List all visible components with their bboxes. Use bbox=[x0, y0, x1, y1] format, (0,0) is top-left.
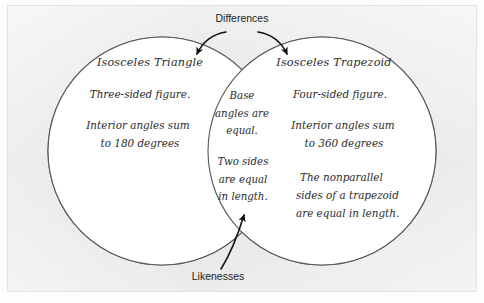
left-set-item-2: to 180 degrees bbox=[101, 137, 180, 149]
right-set-item-5: are equal in length. bbox=[296, 207, 399, 219]
left-set-item-1: Interior angles sum bbox=[85, 119, 190, 131]
right-set-item-4: sides of a trapezoid bbox=[296, 189, 399, 201]
right-set-item-3: The nonparallel bbox=[300, 171, 383, 183]
left-set-item-0: Three-sided figure. bbox=[90, 88, 191, 100]
overlap-item-1-line-0: Two sides bbox=[218, 156, 269, 167]
likenesses-label: Likenesses bbox=[192, 270, 245, 282]
right-set-item-2: to 360 degrees bbox=[305, 137, 384, 149]
overlap-item-1-line-2: in length. bbox=[218, 191, 267, 202]
right-set-title: Isosceles Trapezoid bbox=[275, 56, 391, 69]
overlap-item-1-line-1: are equal bbox=[219, 174, 268, 185]
right-set-circle-outline bbox=[208, 37, 436, 265]
right-set-item-0: Four-sided figure. bbox=[292, 88, 387, 100]
screenshot-canvas: Isosceles Triangle Three-sided figure. I… bbox=[0, 0, 484, 303]
venn-diagram: Isosceles Triangle Three-sided figure. I… bbox=[0, 0, 484, 303]
overlap-item-0-line-2: equal. bbox=[226, 125, 258, 136]
differences-label: Differences bbox=[216, 12, 269, 24]
right-set-item-1: Interior angles sum bbox=[290, 119, 395, 131]
overlap-item-0-line-1: angles are bbox=[215, 108, 269, 119]
overlap-item-0-line-0: Base bbox=[229, 90, 255, 101]
left-set-title: Isosceles Triangle bbox=[96, 56, 203, 69]
